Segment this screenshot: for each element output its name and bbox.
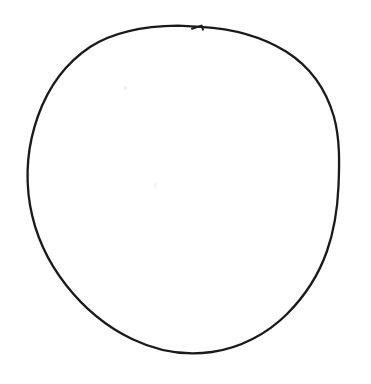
canvas-background: [0, 0, 371, 384]
sketch-canvas: [0, 0, 371, 384]
circle-sketch-svg: [0, 0, 371, 384]
